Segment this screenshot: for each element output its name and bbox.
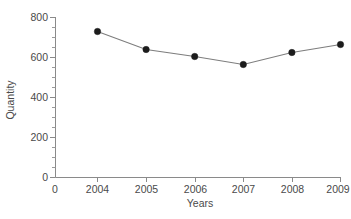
x-tick-label-2008: 2008: [281, 183, 305, 195]
series-marker-group: [94, 28, 343, 67]
data-point-2009: [337, 41, 343, 47]
series-line-quantity: [98, 32, 341, 65]
x-tick-label-2009: 2009: [326, 183, 350, 195]
x-tick-label-2007: 2007: [232, 183, 256, 195]
data-point-2005: [143, 46, 149, 52]
x-tick-label-2005: 2005: [135, 183, 159, 195]
chart-plot-svg: Quantity Years 800 600 400 200 0: [0, 0, 351, 219]
line-chart-figure: Quantity Years 800 600 400 200 0: [0, 0, 351, 219]
data-point-2007: [240, 61, 246, 67]
y-tick-label-600: 600: [30, 51, 48, 63]
y-tick-label-400: 400: [30, 91, 48, 103]
data-point-2006: [192, 53, 198, 59]
y-tick-label-200: 200: [30, 131, 48, 143]
y-tick-label-800: 800: [30, 11, 48, 23]
x-axis-title: Years: [187, 197, 213, 209]
data-point-2008: [289, 49, 295, 55]
data-point-2004: [94, 28, 100, 34]
x-tick-label-2006: 2006: [184, 183, 208, 195]
y-tick-label-0: 0: [42, 171, 48, 183]
x-tick-label-2004: 2004: [86, 183, 110, 195]
x-tick-label-origin: 0: [52, 183, 58, 195]
y-axis-title: Quantity: [4, 80, 16, 120]
